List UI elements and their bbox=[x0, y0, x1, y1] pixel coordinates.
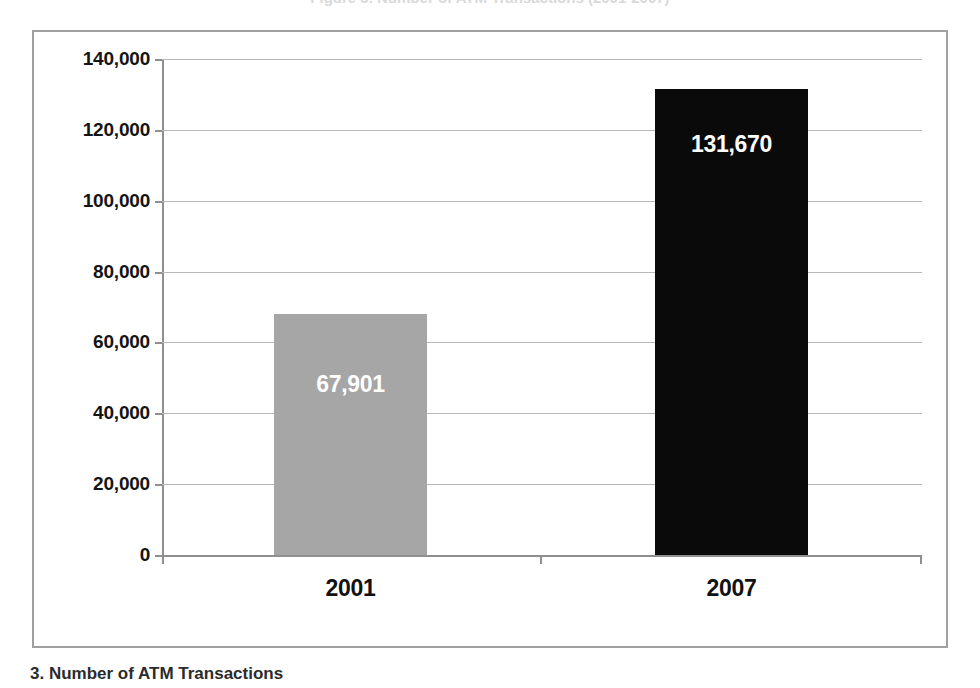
bar-value-2001: 67,901 bbox=[274, 371, 427, 398]
chart-frame: 140,000 120,000 100,000 80,000 60,000 40… bbox=[32, 30, 948, 648]
y-tick-100000 bbox=[155, 201, 162, 203]
x-axis-label-2001: 2001 bbox=[274, 575, 427, 602]
bar-2001[interactable]: 67,901 bbox=[274, 314, 427, 555]
figure-caption: 3. Number of ATM Transactions bbox=[30, 664, 930, 684]
x-axis-label-2007: 2007 bbox=[655, 575, 808, 602]
gridline-120000 bbox=[162, 130, 922, 131]
gridline-100000 bbox=[162, 201, 922, 202]
x-tick-middle bbox=[540, 555, 542, 564]
y-axis-label-120000: 120,000 bbox=[83, 119, 150, 141]
y-axis-label-0: 0 bbox=[140, 544, 150, 566]
axis-baseline-zero bbox=[162, 555, 922, 557]
clipped-title-strip: Figure 3. Number of ATM Transactions (20… bbox=[0, 0, 980, 16]
gridline-140000 bbox=[162, 59, 922, 60]
bar-value-2007: 131,670 bbox=[655, 131, 808, 158]
y-tick-140000 bbox=[155, 59, 162, 61]
y-axis-label-140000: 140,000 bbox=[83, 48, 150, 70]
plot-area: 140,000 120,000 100,000 80,000 60,000 40… bbox=[162, 59, 922, 555]
y-axis-label-60000: 60,000 bbox=[93, 331, 150, 353]
gridline-80000 bbox=[162, 272, 922, 273]
x-tick-start bbox=[162, 555, 164, 564]
bar-2007[interactable]: 131,670 bbox=[655, 89, 808, 556]
clipped-title-text: Figure 3. Number of ATM Transactions (20… bbox=[0, 0, 980, 6]
y-axis-line bbox=[162, 59, 164, 555]
y-tick-60000 bbox=[155, 342, 162, 344]
y-axis-label-20000: 20,000 bbox=[93, 473, 150, 495]
y-tick-40000 bbox=[155, 413, 162, 415]
x-tick-end bbox=[920, 555, 922, 564]
y-axis-label-100000: 100,000 bbox=[83, 190, 150, 212]
y-axis-label-80000: 80,000 bbox=[93, 261, 150, 283]
y-tick-120000 bbox=[155, 130, 162, 132]
y-axis-label-40000: 40,000 bbox=[93, 402, 150, 424]
y-tick-80000 bbox=[155, 272, 162, 274]
y-tick-20000 bbox=[155, 484, 162, 486]
y-tick-0 bbox=[155, 555, 162, 557]
